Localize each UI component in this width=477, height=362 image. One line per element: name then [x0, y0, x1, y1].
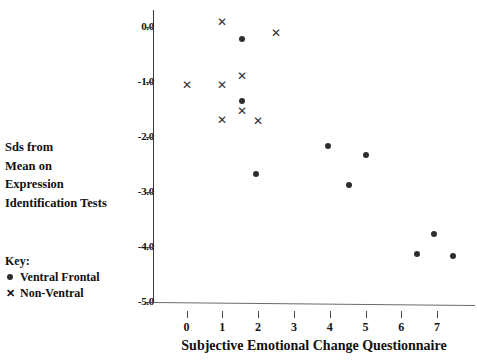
x-axis-tick-label: 0: [177, 320, 197, 335]
x-axis-tick-label: 6: [391, 320, 411, 335]
data-point-non-ventral: ✕: [236, 71, 247, 82]
data-point-non-ventral: ✕: [236, 106, 247, 117]
data-point-ventral-frontal: [346, 182, 352, 188]
y-axis-tick-mark: [146, 302, 154, 303]
y-axis-title: Sds fromMean onExpressionIdentification …: [5, 138, 145, 212]
scatter-plot-figure: 0.0-1.0-2.0-3.0-4.0-5.0 01234567 ✕✕✕✕✕✕✕…: [0, 0, 477, 362]
y-axis-tick-label: -1.0: [120, 75, 154, 87]
x-axis-tick-mark: [437, 311, 438, 318]
x-axis-tick-mark: [222, 311, 223, 318]
y-axis-tick: -5.0: [0, 302, 154, 303]
x-axis-title: Subjective Emotional Change Questionnair…: [153, 338, 475, 354]
x-axis-tick-label: 3: [284, 320, 304, 335]
x-axis-tick-mark: [258, 311, 259, 318]
data-point-non-ventral: ✕: [217, 80, 228, 91]
x-axis-tick-label: 2: [248, 320, 268, 335]
circle-marker-icon: [7, 274, 13, 280]
y-axis-tick: -1.0: [0, 82, 154, 83]
legend-entry-non-ventral: ✕ Non-Ventral: [5, 285, 135, 301]
data-point-ventral-frontal: [414, 251, 420, 257]
x-axis-tick-label: 5: [356, 320, 376, 335]
data-point-ventral-frontal: [239, 36, 245, 42]
y-axis-tick-mark: [146, 27, 154, 28]
y-axis-tick-label: -4.0: [120, 240, 154, 252]
x-axis-tick-mark: [294, 311, 295, 318]
data-point-non-ventral: ✕: [253, 116, 264, 127]
legend-key: Key: Ventral Frontal ✕ Non-Ventral: [5, 253, 135, 301]
x-axis-tick-label: 1: [212, 320, 232, 335]
data-point-ventral-frontal: [363, 152, 369, 158]
data-point-ventral-frontal: [325, 143, 331, 149]
x-axis-line: [153, 302, 475, 306]
cross-marker-icon: ✕: [5, 285, 15, 301]
y-axis-line: [153, 10, 154, 303]
y-axis-tick-mark: [146, 82, 154, 83]
y-axis-title-line: Mean on: [5, 157, 145, 176]
legend-label-non-ventral: Non-Ventral: [20, 285, 84, 301]
legend-entry-ventral-frontal: Ventral Frontal: [5, 269, 135, 285]
y-axis-title-line: Identification Tests: [5, 194, 145, 213]
data-point-non-ventral: ✕: [271, 28, 282, 39]
data-point-ventral-frontal: [253, 171, 259, 177]
data-point-non-ventral: ✕: [217, 17, 228, 28]
y-axis-title-line: Sds from: [5, 138, 145, 157]
legend-title: Key:: [5, 253, 135, 269]
y-axis-tick: -4.0: [0, 247, 154, 248]
y-axis-title-line: Expression: [5, 175, 145, 194]
legend-label-ventral-frontal: Ventral Frontal: [20, 269, 100, 285]
data-point-non-ventral: ✕: [217, 115, 228, 126]
data-point-non-ventral: ✕: [181, 80, 192, 91]
data-point-ventral-frontal: [450, 253, 456, 259]
x-axis-tick-label: 7: [427, 320, 447, 335]
data-point-ventral-frontal: [431, 231, 437, 237]
y-axis-tick-mark: [146, 247, 154, 248]
x-axis-tick-mark: [330, 311, 331, 318]
y-axis-tick-mark: [146, 137, 154, 138]
x-axis-tick-mark: [366, 311, 367, 318]
y-axis-tick-mark: [146, 192, 154, 193]
y-axis-tick: 0.0: [0, 27, 154, 28]
x-axis-tick-mark: [401, 311, 402, 318]
x-axis-tick-label: 4: [320, 320, 340, 335]
x-axis-tick-mark: [187, 311, 188, 318]
y-axis-tick-label: 0.0: [120, 20, 154, 32]
